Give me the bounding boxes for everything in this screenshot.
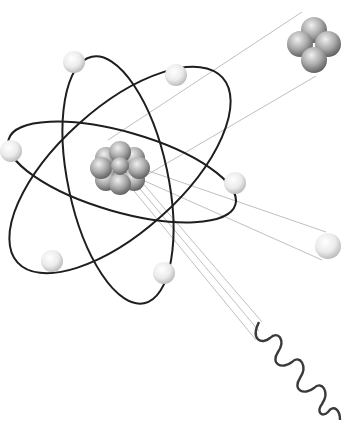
gamma-path-lower (130, 186, 256, 340)
atom-diagram (0, 0, 361, 424)
electron (224, 172, 246, 194)
alpha-particle (287, 17, 341, 73)
electron (0, 140, 22, 162)
electron (153, 262, 175, 284)
gamma-path-upper (140, 180, 262, 322)
atom-illustration (0, 0, 361, 424)
electron (63, 51, 85, 73)
gamma-ray-wave (256, 322, 340, 420)
beta-particle (315, 233, 341, 259)
electron (165, 64, 187, 86)
gamma-path-mid (135, 183, 259, 331)
alpha-path-upper (108, 12, 302, 140)
electron (41, 250, 63, 272)
nucleus (90, 141, 150, 195)
